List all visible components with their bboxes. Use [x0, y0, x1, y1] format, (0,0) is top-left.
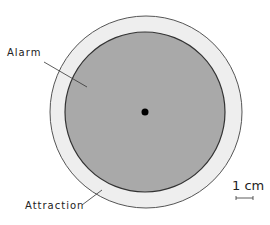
center-marker: [142, 109, 149, 116]
alarm-label: Alarm: [7, 47, 41, 58]
scale-label: 1 cm: [232, 178, 264, 193]
zone-diagram: [0, 0, 270, 225]
scale-bar: [236, 196, 253, 200]
attraction-label: Attraction: [25, 200, 84, 211]
attraction-leader-line: [82, 190, 102, 205]
